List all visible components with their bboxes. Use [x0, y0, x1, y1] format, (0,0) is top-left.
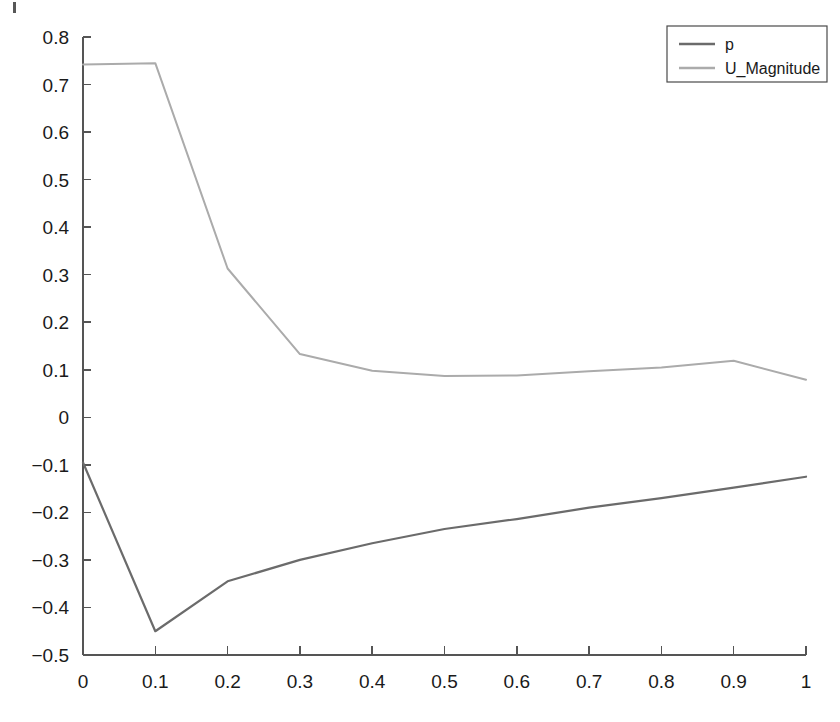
y-tick-label: 0.1 [43, 360, 69, 381]
x-tick-label: 0.4 [359, 671, 386, 692]
y-tick-label: 0 [58, 407, 69, 428]
y-tick-label: 0.6 [43, 122, 69, 143]
legend-label-p: p [725, 36, 734, 53]
y-tick-label: 0.3 [43, 265, 69, 286]
x-tick-label: 0.5 [431, 671, 457, 692]
y-tick-label: −0.5 [31, 645, 69, 666]
x-axis-tick-labels: 00.10.20.30.40.50.60.70.80.91 [78, 671, 812, 692]
y-axis-tick-labels: −0.5−0.4−0.3−0.2−0.100.10.20.30.40.50.60… [31, 27, 69, 666]
x-tick-label: 0.1 [142, 671, 168, 692]
x-axis-ticks [83, 646, 806, 655]
line-chart: −0.5−0.4−0.3−0.2−0.100.10.20.30.40.50.60… [0, 0, 840, 722]
x-tick-label: 0.6 [504, 671, 530, 692]
x-tick-label: 0.7 [576, 671, 602, 692]
y-axis-ticks [83, 37, 91, 655]
x-tick-label: 0.9 [720, 671, 746, 692]
y-tick-label: −0.1 [31, 455, 69, 476]
y-tick-label: 0.2 [43, 312, 69, 333]
x-axis-group: 00.10.20.30.40.50.60.70.80.91 [78, 646, 812, 692]
x-tick-label: 0.8 [648, 671, 674, 692]
data-series-group [83, 63, 806, 631]
y-tick-label: −0.4 [31, 597, 69, 618]
legend-label-u-magnitude: U_Magnitude [725, 60, 820, 78]
y-tick-label: 0.8 [43, 27, 69, 48]
chart-legend[interactable]: pU_Magnitude [667, 26, 827, 82]
x-tick-label: 0.2 [214, 671, 240, 692]
x-tick-label: 1 [801, 671, 812, 692]
y-axis-group: −0.5−0.4−0.3−0.2−0.100.10.20.30.40.50.60… [31, 27, 91, 666]
y-tick-label: −0.3 [31, 550, 69, 571]
y-tick-label: 0.5 [43, 170, 69, 191]
y-tick-label: 0.7 [43, 75, 69, 96]
series-line-u-magnitude [83, 63, 806, 380]
x-tick-label: 0.3 [287, 671, 313, 692]
x-tick-label: 0 [78, 671, 89, 692]
y-tick-label: 0.4 [43, 217, 70, 238]
series-line-p [83, 462, 806, 631]
y-tick-label: −0.2 [31, 502, 69, 523]
chart-container: −0.5−0.4−0.3−0.2−0.100.10.20.30.40.50.60… [0, 0, 840, 722]
